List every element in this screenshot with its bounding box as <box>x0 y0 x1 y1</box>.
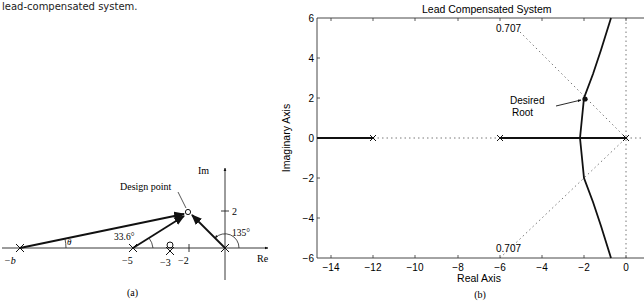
figure-a-label: (a) <box>127 287 138 299</box>
tick-minus-5: −5 <box>122 255 133 266</box>
theta-arc <box>65 239 66 248</box>
desired-root-label-1: Desired <box>510 95 544 106</box>
design-point-label: Design point <box>120 181 172 192</box>
zero-marker <box>167 242 173 248</box>
damping-label-bottom: 0.707 <box>496 243 521 254</box>
re-label: Re <box>257 253 269 264</box>
svg-text:−2: −2 <box>578 262 590 273</box>
desired-root-pointer <box>556 100 581 106</box>
angle-135-label: 135° <box>232 228 250 238</box>
desired-root-marker <box>582 96 587 101</box>
x-axis-label: Real Axis <box>457 272 501 284</box>
tick-minus-3: −3 <box>160 257 171 268</box>
im-label: Im <box>198 165 209 176</box>
angle-33-label: 33.6° <box>114 232 135 242</box>
locus-lower-branch <box>580 138 611 258</box>
figure-a: Im Re 2 −b −5 −3 −2 Design point θ 33.6°… <box>2 165 269 299</box>
svg-text:4: 4 <box>308 53 314 64</box>
tick-minus-2: −2 <box>178 255 189 266</box>
pole-markers <box>16 244 229 255</box>
design-point-pointer <box>178 192 186 208</box>
theta-label: θ <box>67 237 72 247</box>
design-point-marker <box>185 209 190 214</box>
desired-root-label-2: Root <box>512 107 533 118</box>
svg-text:0: 0 <box>623 262 629 273</box>
svg-text:−4: −4 <box>536 262 548 273</box>
y-axis-label: Imaginary Axis <box>280 104 292 172</box>
tick-minus-b: −b <box>4 255 16 266</box>
svg-text:−2: −2 <box>303 173 315 184</box>
damping-label-top: 0.707 <box>496 23 521 34</box>
svg-text:2: 2 <box>308 93 314 104</box>
chart-title: Lead Compensated System <box>422 3 552 15</box>
angle-33-arc <box>149 238 153 248</box>
svg-text:−12: −12 <box>365 262 382 273</box>
vector-from-0 <box>192 215 225 248</box>
svg-text:−10: −10 <box>407 262 424 273</box>
figure-b: Lead Compensated System −14 −12 <box>280 3 644 301</box>
svg-text:0: 0 <box>308 133 314 144</box>
im-tick-2: 2 <box>232 206 237 217</box>
locus-upper-branch <box>580 18 611 138</box>
svg-text:−6: −6 <box>303 253 315 264</box>
figure-b-label: (b) <box>474 289 486 301</box>
svg-text:−14: −14 <box>323 262 340 273</box>
svg-text:−4: −4 <box>303 213 315 224</box>
y-tick-labels: 6 4 2 0 −2 −4 −6 <box>303 13 315 264</box>
svg-text:6: 6 <box>308 13 314 24</box>
figure-canvas: Im Re 2 −b −5 −3 −2 Design point θ 33.6°… <box>0 0 644 302</box>
vector-from-5 <box>133 216 184 248</box>
